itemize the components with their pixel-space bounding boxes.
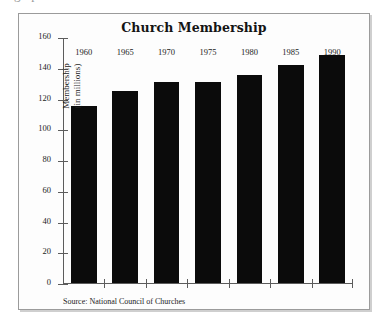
x-tick-label: 1985 <box>282 47 299 57</box>
chart-figure: Church Membership 020406080100120140160 … <box>18 13 370 310</box>
y-tick-label: 80 <box>43 154 52 164</box>
x-tick <box>229 279 230 288</box>
y-tick: 40 <box>58 223 68 224</box>
y-axis-label: Membership (in millions) <box>61 26 83 146</box>
bar <box>319 55 345 283</box>
y-tick-label: 20 <box>43 246 52 256</box>
bar <box>154 82 180 283</box>
x-tick <box>270 279 271 288</box>
x-tick <box>312 279 313 288</box>
y-tick: 80 <box>58 161 68 162</box>
x-tick-label: 1965 <box>117 47 134 57</box>
source-note: Source: National Council of Churches <box>63 297 185 306</box>
bar <box>237 75 263 283</box>
bar <box>112 91 138 283</box>
y-axis-label-line1: Membership <box>61 26 72 146</box>
x-tick-label: 1975 <box>200 47 217 57</box>
x-axis-line <box>63 283 353 284</box>
y-axis-label-line2: (in millions) <box>72 26 83 146</box>
x-tick <box>104 279 105 288</box>
y-tick: 60 <box>58 192 68 193</box>
y-tick-label: 40 <box>43 216 52 226</box>
x-tick <box>187 279 188 288</box>
y-tick-label: 140 <box>38 62 51 72</box>
y-tick-label: 120 <box>38 93 51 103</box>
y-tick-label: 60 <box>43 185 52 195</box>
y-tick: 20 <box>58 253 68 254</box>
y-tick-label: 100 <box>38 123 51 133</box>
x-tick-label: 1970 <box>158 47 175 57</box>
x-tick <box>352 279 353 288</box>
y-tick-label: 160 <box>38 31 51 41</box>
x-tick <box>146 279 147 288</box>
x-tick-label: 1980 <box>241 47 258 57</box>
clipped-header-strip: graph <box>0 0 385 11</box>
y-tick-label: 0 <box>47 277 51 287</box>
bar <box>195 82 221 283</box>
clipped-header-text: graph <box>14 0 45 3</box>
plot-area: 020406080100120140160 196019651970197519… <box>63 38 353 284</box>
bar <box>278 65 304 283</box>
y-tick: 0 <box>58 284 68 285</box>
